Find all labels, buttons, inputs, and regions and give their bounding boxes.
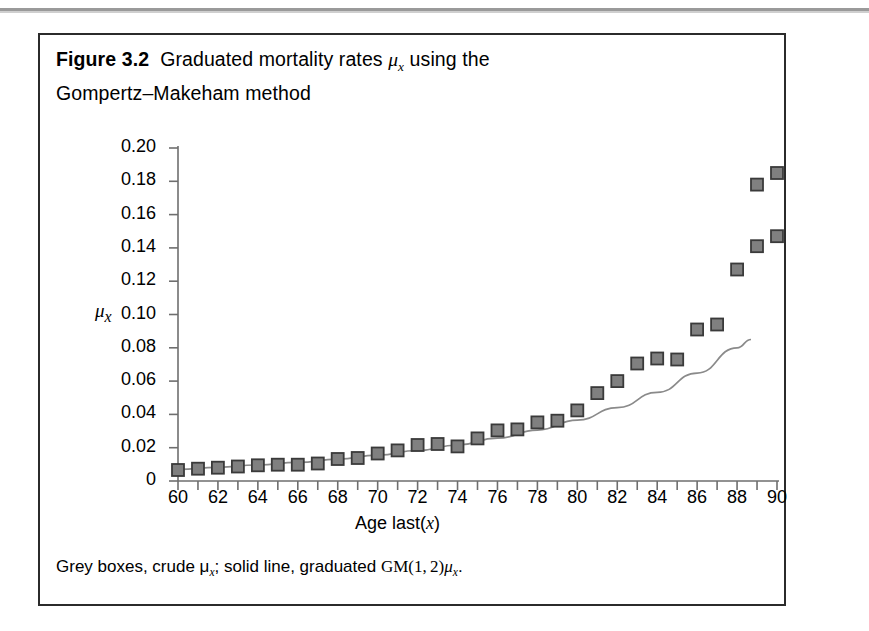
caption-end: .: [458, 557, 463, 576]
x-tick-label: 82: [597, 487, 637, 508]
x-tick-label: 66: [278, 487, 318, 508]
x-tick-label: 86: [677, 487, 717, 508]
x-axis-label-var: x: [426, 513, 434, 533]
x-tick-label: 72: [398, 487, 438, 508]
y-tick-label: 0.04: [96, 402, 156, 423]
figure-caption: Grey boxes, crude μx; solid line, gradua…: [56, 557, 463, 579]
figure-title-text-2: using the: [404, 48, 490, 70]
x-tick-label: 70: [358, 487, 398, 508]
x-tick-label: 84: [637, 487, 677, 508]
x-tick-label: 76: [477, 487, 517, 508]
caption-pre: Grey boxes, crude μ: [56, 557, 209, 576]
y-tick-label: 0.18: [96, 169, 156, 190]
figure-title: Figure 3.2 Graduated mortality rates μx …: [56, 46, 536, 107]
y-tick-label: 0: [96, 469, 156, 490]
caption-mu-2: μx: [444, 557, 458, 576]
y-tick-label: 0.14: [96, 236, 156, 257]
figure-number: Figure 3.2: [56, 48, 149, 70]
figure-title-line2: Gompertz–Makeham method: [56, 82, 311, 104]
x-tick-label: 64: [238, 487, 278, 508]
mu-symbol-title: μx: [388, 49, 404, 70]
x-tick-label: 74: [438, 487, 478, 508]
x-tick-label: 60: [158, 487, 198, 508]
x-axis-label-post: ): [434, 513, 440, 533]
page-top-rule-shadow: [0, 11, 869, 13]
x-tick-label: 78: [517, 487, 557, 508]
y-tick-label: 0.10: [96, 303, 156, 324]
caption-gm: GM(1, 2): [381, 557, 444, 576]
y-tick-label: 0.16: [96, 203, 156, 224]
figure-title-text-1: Graduated mortality rates: [149, 48, 388, 70]
y-tick-label: 0.08: [96, 336, 156, 357]
x-tick-label: 62: [198, 487, 238, 508]
x-tick-label: 68: [318, 487, 358, 508]
caption-mid: ; solid line, graduated: [215, 557, 381, 576]
x-tick-label: 88: [717, 487, 757, 508]
x-tick-label: 90: [757, 487, 797, 508]
y-tick-label: 0.02: [96, 436, 156, 457]
y-tick-label: 0.12: [96, 269, 156, 290]
y-tick-label: 0.06: [96, 369, 156, 390]
y-tick-label: 0.20: [96, 136, 156, 157]
x-tick-label: 80: [557, 487, 597, 508]
x-axis-label: Age last(x): [355, 513, 440, 534]
x-axis-label-pre: Age last(: [355, 513, 426, 533]
